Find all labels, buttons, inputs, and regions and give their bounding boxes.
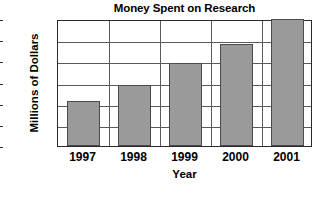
- x-axis-title: Year: [57, 168, 312, 181]
- x-axis-tick-label: 2000: [210, 151, 261, 164]
- x-axis-tick-label: 1997: [57, 151, 108, 164]
- y-axis-title: Millions of Dollars: [28, 8, 40, 158]
- gridline-vertical: [160, 21, 161, 146]
- bar-1998: [118, 85, 151, 146]
- y-axis-tick-mark: [0, 105, 3, 106]
- gridline-vertical: [262, 21, 263, 146]
- bar-1997: [67, 101, 100, 146]
- bar-2000: [220, 44, 253, 146]
- plot-area: [57, 20, 312, 147]
- x-axis-tick-label: 1998: [108, 151, 159, 164]
- gridline-vertical: [109, 21, 110, 146]
- bar-1999: [169, 63, 202, 146]
- chart-title: Money Spent on Research: [57, 1, 312, 16]
- x-axis-tick-label: 1999: [159, 151, 210, 164]
- y-axis-tick-mark: [0, 126, 3, 127]
- y-axis-tick-mark: [0, 20, 3, 21]
- x-axis-tick-label: 2001: [261, 151, 312, 164]
- bar-chart: Money Spent on Research Millions of Doll…: [0, 0, 330, 201]
- gridline-vertical: [211, 21, 212, 146]
- bar-2001: [271, 19, 304, 146]
- plot-inner: [58, 21, 311, 146]
- y-axis-tick-mark: [0, 62, 3, 63]
- y-axis-tick-mark: [0, 41, 3, 42]
- y-axis-tick-mark: [0, 84, 3, 85]
- y-axis-tick-mark: [0, 147, 3, 148]
